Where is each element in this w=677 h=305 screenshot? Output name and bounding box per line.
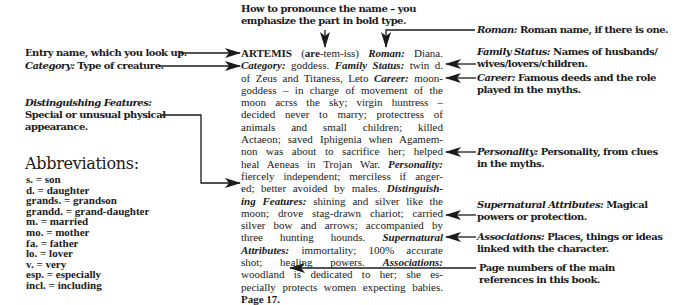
entry-line: fiercely independent; merciless if anger…	[241, 170, 443, 182]
callout-roman-label: Roman:	[477, 24, 517, 35]
entry-text: moon-	[409, 72, 443, 84]
entry-page-reference: Page 17.	[241, 293, 280, 305]
entry-category-value: goddess.	[286, 59, 335, 71]
callout-personality-line2: in the myths.	[477, 158, 658, 170]
callout-career-label: Career:	[477, 72, 515, 83]
entry-distinguishing-label: Distinguish-	[387, 182, 443, 194]
callout-entry-name: Entry name, which you look up.	[25, 47, 187, 59]
callout-career-line1: Famous deeds and the role	[515, 72, 656, 83]
callout-supernatural-line1: Magical	[603, 199, 647, 210]
callout-page-numbers-line2: references in this book.	[479, 274, 615, 286]
entry-text: heal Aeneas in Trojan War.	[241, 158, 388, 170]
callout-distinguishing-label: Distinguishing Features:	[25, 97, 152, 108]
entry-line: silver bow and arrows; accompanied by	[241, 219, 443, 231]
entry-line: non was about to sacrifice her; helped	[241, 145, 443, 157]
callout-family-status-line1: Names of husbands/	[550, 46, 657, 57]
entry-pron-stress: are	[305, 47, 320, 59]
callout-roman-text: Roman name, if there is one.	[517, 24, 668, 35]
callout-distinguishing-line2: appearance.	[25, 121, 165, 133]
entry-roman-label: Roman:	[368, 47, 405, 59]
entry-line: ed; better avoided by males. Distinguish…	[241, 182, 443, 194]
callout-career: Career: Famous deeds and the role played…	[477, 72, 656, 96]
entry-line: heal Aeneas in Trojan War. Personality:	[241, 158, 443, 170]
entry-family-value: twin d.	[404, 59, 443, 71]
distinguishing-arrow	[162, 115, 240, 183]
callout-associations: Associations: Places, things or ideas li…	[477, 231, 662, 255]
callout-career-line2: played in the myths.	[477, 84, 656, 96]
callout-family-status-line2: wives/lovers/children.	[477, 58, 657, 70]
entry-line: animals and small children; killed	[241, 121, 443, 133]
entry-text: of Zeus and Titaness, Leto	[241, 72, 374, 84]
entry-line: goddess – in charge of movement of the	[241, 84, 443, 96]
entry-pron-open: (	[292, 47, 305, 59]
sample-entry: ARTEMIS (are-tem-iss) Roman: Diana. Cate…	[241, 47, 443, 305]
entry-name: ARTEMIS	[241, 47, 292, 59]
abbreviation-item: s. = son	[26, 174, 149, 185]
callout-entry-name-text: Entry name, which you look up.	[25, 47, 187, 58]
entry-line: moon acrss the sky; virgin huntress –	[241, 96, 443, 108]
entry-supernatural-label: Attributes:	[241, 244, 289, 256]
entry-line: moon; drove stag-drawn chariot; carried	[241, 207, 443, 219]
callout-supernatural-label: Supernatural Attributes:	[477, 199, 603, 210]
entry-supernatural-label: Supernatural	[382, 231, 443, 243]
callout-associations-line2: linked with the character.	[477, 243, 662, 255]
callout-personality-label: Personality:	[477, 146, 538, 157]
entry-roman-value: Diana.	[405, 47, 443, 59]
abbreviation-item: incl. = including	[26, 280, 149, 291]
callout-supernatural: Supernatural Attributes: Magical powers …	[477, 199, 647, 223]
roman-arrow	[386, 30, 475, 47]
abbreviations-title: Abbreviations:	[25, 154, 139, 173]
entry-line: decided never to marry; protectress of	[241, 108, 443, 120]
entry-family-label: Family Status:	[335, 59, 405, 71]
entry-line: ing Features: shining and silver like th…	[241, 195, 443, 207]
callout-pronunciation: How to pronounce the name – you emphasiz…	[241, 3, 416, 27]
callout-roman: Roman: Roman name, if there is one.	[477, 24, 668, 36]
abbreviations-list: s. = son d. = daughter grands. = grandso…	[26, 174, 149, 291]
callout-family-status-label: Family Status:	[477, 46, 550, 57]
entry-line: Actaeon; saved Iphigenia when Agamem-	[241, 133, 443, 145]
entry-line: Attributes: immortality; 100% accurate	[241, 244, 443, 256]
entry-line: shot; healing powers. Associations:	[241, 256, 443, 268]
entry-category-label: Category:	[241, 59, 286, 71]
entry-line: Category: goddess. Family Status: twin d…	[241, 59, 443, 71]
entry-pron-rest: -tem-iss)	[320, 47, 368, 59]
callout-category-label: Category:	[25, 60, 74, 71]
entry-line: three hunting hounds. Supernatural	[241, 231, 443, 243]
entry-line: ARTEMIS (are-tem-iss) Roman: Diana.	[241, 47, 443, 59]
callout-family-status: Family Status: Names of husbands/ wives/…	[477, 46, 657, 70]
entry-line: woodland is dedicated to her; she es-	[241, 268, 443, 280]
callout-category-text: Type of creature.	[74, 60, 163, 71]
entry-line: Page 17.	[241, 293, 443, 305]
callout-pronunciation-line2: emphasize the part in bold type.	[241, 15, 416, 27]
entry-career-label: Career:	[374, 72, 409, 84]
callout-category: Category: Type of creature.	[25, 60, 163, 72]
callout-page-numbers-line1: Page numbers of the main	[479, 262, 615, 274]
entry-personality-label: Personality:	[388, 158, 443, 170]
callout-supernatural-line2: powers or protection.	[477, 211, 647, 223]
entry-line: pecially protects women expecting babies…	[241, 281, 443, 293]
callout-distinguishing: Distinguishing Features: Special or unus…	[25, 97, 165, 133]
entry-text: ed; better avoided by males.	[241, 182, 387, 194]
entry-line: of Zeus and Titaness, Leto Career: moon-	[241, 72, 443, 84]
entry-text: shot; healing powers.	[241, 256, 382, 268]
callout-associations-label: Associations:	[477, 231, 544, 242]
callout-distinguishing-line1: Special or unusual physical	[25, 109, 165, 121]
callout-personality-line1: Personality, from clues	[538, 146, 658, 157]
entry-text: shining and silver like the	[306, 195, 443, 207]
entry-distinguishing-label: ing Features:	[241, 195, 306, 207]
callout-personality: Personality: Personality, from clues in …	[477, 146, 658, 170]
abbreviation-item: mo. = mother	[26, 227, 149, 238]
entry-associations-label: Associations:	[382, 256, 443, 268]
entry-text: three hunting hounds.	[241, 231, 382, 243]
callout-pronunciation-line1: How to pronounce the name – you	[241, 3, 416, 15]
callout-page-numbers: Page numbers of the main references in t…	[479, 262, 615, 286]
entry-text: immortality; 100% accurate	[289, 244, 443, 256]
callout-associations-line1: Places, things or ideas	[544, 231, 662, 242]
